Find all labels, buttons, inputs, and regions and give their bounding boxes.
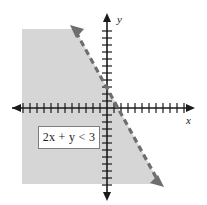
y-axis-label: y <box>116 13 122 25</box>
inequality-graph-figure: x y 2x + y < 3 <box>0 0 207 205</box>
x-axis-left-arrow <box>12 104 21 112</box>
inequality-label-box: 2x + y < 3 <box>38 126 100 149</box>
coordinate-plane: x y <box>0 0 207 205</box>
x-axis-right-arrow <box>186 104 195 112</box>
y-axis-down-arrow <box>103 192 111 201</box>
shaded-solution-region <box>22 29 160 184</box>
x-axis-label: x <box>185 114 191 126</box>
y-axis-up-arrow <box>103 13 111 22</box>
